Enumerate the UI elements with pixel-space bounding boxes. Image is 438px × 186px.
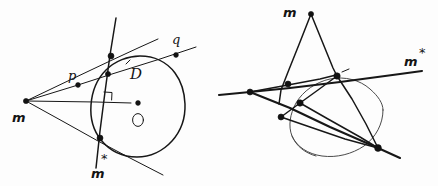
- label-point-p: p: [68, 68, 77, 83]
- label-right-apex-m: m: [283, 5, 297, 20]
- label-point-q: q: [172, 32, 180, 47]
- label-polar-point-star: *: [101, 151, 108, 166]
- geometry-figure: m p q D m * m m *: [0, 0, 438, 186]
- label-polar-d: D: [129, 65, 142, 83]
- label-polar-point-m: m: [91, 166, 105, 181]
- label-right-image-m: m: [404, 54, 418, 69]
- label-right-image-star: *: [419, 45, 426, 60]
- figure-labels: m p q D m * m m *: [0, 0, 438, 186]
- label-pole-m: m: [12, 110, 26, 125]
